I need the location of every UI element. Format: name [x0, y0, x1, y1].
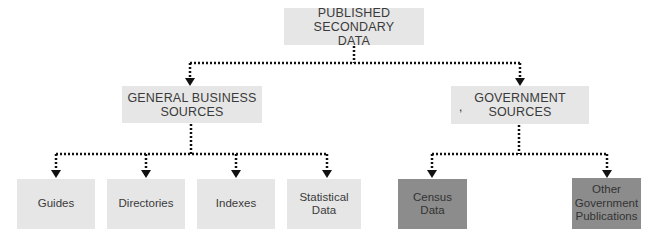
root-label-line1: Published Secondary — [284, 6, 424, 34]
census-label-line1: Census — [413, 191, 452, 205]
statistical-label-line1: Statistical — [299, 191, 348, 205]
census-label-line2: Data — [420, 204, 444, 218]
general-business-label-line1: General Business — [127, 91, 256, 105]
general-business-label-line2: Sources — [160, 105, 223, 119]
node-indexes: Indexes — [197, 179, 275, 229]
government-label-line1: Government — [474, 91, 566, 105]
node-directories: Directories — [107, 179, 185, 229]
guides-label: Guides — [38, 197, 74, 211]
node-census-data: Census Data — [398, 179, 467, 229]
indexes-label: Indexes — [216, 197, 256, 211]
root-node-published-secondary-data: Published Secondary Data — [284, 8, 424, 45]
root-label-line2: Data — [338, 34, 370, 48]
node-government-sources: Government Sources — [451, 86, 589, 124]
directories-label: Directories — [119, 197, 174, 211]
node-statistical-data: Statistical Data — [287, 179, 361, 229]
node-general-business-sources: General Business Sources — [122, 86, 262, 123]
other-label-line3: Publications — [575, 210, 637, 224]
other-label-line2: Government — [575, 197, 638, 211]
node-guides: Guides — [17, 179, 95, 229]
stray-comma-mark: , — [459, 100, 462, 114]
government-label-line2: Sources — [488, 105, 551, 119]
node-other-government-publications: Other Government Publications — [572, 178, 641, 229]
statistical-label-line2: Data — [312, 204, 336, 218]
other-label-line1: Other — [592, 183, 621, 197]
